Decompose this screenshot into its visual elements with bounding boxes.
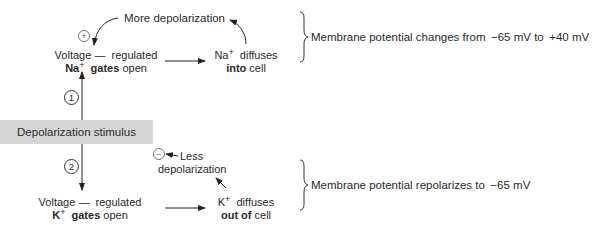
arrow-k-to-less-depol [216,178,226,188]
arrow-na-to-more-depol [230,20,246,44]
minus-sign-icon: − [153,148,165,160]
summary-depolarization: Membrane potential changes from −65 mV t… [311,31,589,44]
na-diffuses-node: Na+ diffuses into cell [208,49,284,75]
k-gates-node: Voltage — regulated K+ gates open [30,196,150,222]
more-depolarization-label: More depolarization [124,12,225,25]
less-depolarization-label-line2: depolarization [158,163,227,176]
stimulus-label: Depolarization stimulus [17,126,136,138]
brace-bottom [300,160,308,210]
step-1-badge: 1 [64,90,79,105]
summary-repolarization: Membrane potential repolarizes to −65 mV [311,179,530,192]
na-gates-node: Voltage — regulated Na+ gates open [50,49,162,75]
brace-top [300,12,308,62]
less-depolarization-label-line1: Less [180,150,203,163]
k-diffuses-node: K+ diffuses out of cell [208,196,284,222]
arrow-less-depol-to-minus [166,154,178,156]
depolarization-stimulus-box: Depolarization stimulus [0,120,153,144]
plus-sign-icon: + [78,30,90,42]
arrow-more-depol-to-na-gates [94,18,118,45]
step-2-badge: 2 [64,159,79,174]
